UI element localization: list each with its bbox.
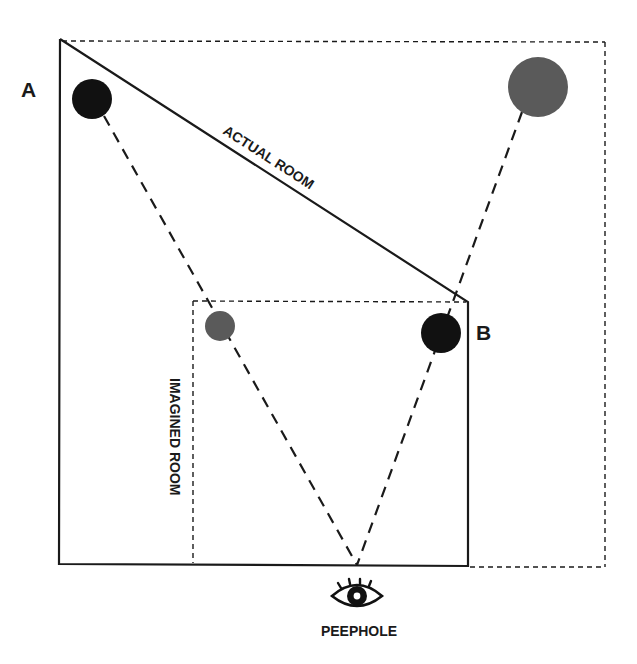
label-actual-room: ACTUAL ROOM — [220, 122, 317, 192]
perceived-room-outline — [62, 41, 605, 567]
person-b-perceived-large — [508, 57, 568, 117]
label-corner-b: B — [476, 321, 491, 344]
actual-room-outline — [59, 39, 468, 566]
eye-icon — [332, 579, 382, 606]
label-peephole: PEEPHOLE — [321, 623, 397, 639]
ames-room-diagram: A B ACTUAL ROOM IMAGINED ROOM PEEPHOLE — [0, 0, 637, 664]
person-a-actual — [72, 79, 112, 119]
person-a-perceived-small — [205, 311, 235, 341]
label-corner-a: A — [21, 78, 36, 101]
label-imagined-room: IMAGINED ROOM — [167, 378, 183, 495]
person-b-actual — [421, 313, 461, 353]
